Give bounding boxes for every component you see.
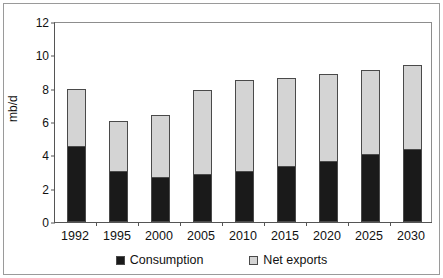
x-axis-tick-mark [390,222,391,226]
chart-figure: mb/d 024681012 1992199520002005201020152… [0,0,443,278]
y-axis-tick-mark [51,89,55,90]
x-axis-tick-label: 2005 [187,229,215,243]
legend-item[interactable]: Consumption [116,253,204,267]
y-axis-tick-label: 12 [36,16,49,30]
bar-segment-consumption[interactable] [235,172,254,222]
y-axis-label: mb/d [6,95,20,122]
x-axis-tick-mark [180,222,181,226]
bar-segment-net-exports[interactable] [193,90,212,176]
y-axis-tick-mark [51,156,55,157]
legend-swatch-icon [249,256,258,265]
bar-segment-consumption[interactable] [403,150,422,222]
x-axis-tick-label: 1995 [103,229,131,243]
plot-area: 024681012 [54,22,432,222]
y-axis-tick-mark [51,23,55,24]
x-axis-tick-label: 2020 [313,229,341,243]
x-axis-tick-label: 2025 [355,229,383,243]
bar-segment-net-exports[interactable] [109,121,128,172]
legend-label: Consumption [130,253,204,267]
y-axis-tick-label: 8 [42,83,49,97]
bar-segment-net-exports[interactable] [151,115,170,178]
bar-segment-net-exports[interactable] [235,80,254,172]
legend-item[interactable]: Net exports [249,253,327,267]
x-axis-tick-label: 2000 [145,229,173,243]
y-axis-tick-mark [51,56,55,57]
stacked-bar[interactable] [109,22,128,222]
bar-segment-consumption[interactable] [109,172,128,222]
bar-segment-consumption[interactable] [67,147,86,222]
stacked-bar[interactable] [67,22,86,222]
bar-segment-net-exports[interactable] [361,70,380,156]
legend-swatch-icon [116,256,125,265]
bar-segment-consumption[interactable] [361,155,380,222]
stacked-bar[interactable] [319,22,338,222]
bar-segment-consumption[interactable] [319,162,338,222]
bar-segment-consumption[interactable] [277,167,296,222]
stacked-bar[interactable] [151,22,170,222]
y-axis-tick-mark [51,189,55,190]
stacked-bar[interactable] [235,22,254,222]
y-axis-tick-label: 6 [42,116,49,130]
x-axis-tick-mark [96,222,97,226]
bar-segment-consumption[interactable] [151,178,170,222]
x-axis-tick-mark [264,222,265,226]
y-axis-tick-label: 4 [42,149,49,163]
x-axis-tick-label: 1992 [61,229,89,243]
x-axis-tick-mark [306,222,307,226]
x-axis-tick-mark [348,222,349,226]
y-axis-tick-label: 2 [42,183,49,197]
y-axis-tick-mark [51,123,55,124]
stacked-bar[interactable] [193,22,212,222]
bar-segment-consumption[interactable] [193,175,212,222]
bar-segment-net-exports[interactable] [277,78,296,167]
bar-segment-net-exports[interactable] [319,74,338,162]
y-axis-tick-label: 0 [42,216,49,230]
stacked-bar[interactable] [361,22,380,222]
chart-legend: ConsumptionNet exports [0,253,443,267]
bar-segment-net-exports[interactable] [67,89,86,147]
x-axis-tick-label: 2030 [397,229,425,243]
bar-segment-net-exports[interactable] [403,65,422,150]
stacked-bar[interactable] [277,22,296,222]
x-axis-tick-label: 2015 [271,229,299,243]
x-axis-tick-mark [222,222,223,226]
x-axis-tick-label: 2010 [229,229,257,243]
y-axis-tick-label: 10 [36,49,49,63]
x-axis-line [54,222,432,223]
stacked-bar[interactable] [403,22,422,222]
x-axis-tick-mark [138,222,139,226]
legend-label: Net exports [263,253,327,267]
